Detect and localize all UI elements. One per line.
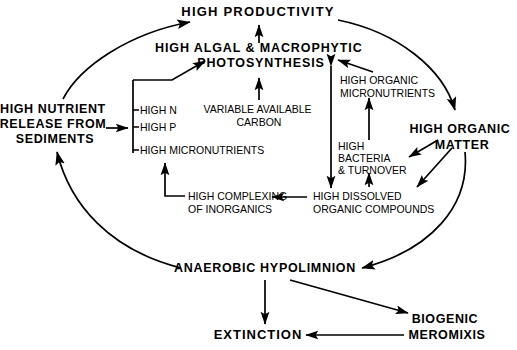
node-biogenic-meromixis: BIOGENIC MEROMIXIS — [409, 312, 486, 342]
photosynthesis-line-2: PHOTOSYNTHESIS — [197, 56, 325, 70]
edge-complexing-to-micronutrients — [165, 163, 185, 196]
node-high-complexing-inorganics: HIGH COMPLEXING OF INORGANICS — [188, 190, 290, 215]
complexing-line-1: HIGH COMPLEXING — [188, 190, 287, 202]
bacteria-line-1: HIGH — [338, 140, 364, 152]
organic-matter-line-1: HIGH ORGANIC — [409, 122, 510, 136]
dissolved-line-2: ORGANIC COMPOUNDS — [313, 203, 434, 215]
organic-matter-line-2: MATTER — [435, 138, 490, 152]
node-high-bacteria-turnover: HIGH BACTERIA & TURNOVER — [338, 140, 407, 176]
edge-organic-matter-to-dissolved — [417, 148, 452, 187]
org-micro-line-2: MICRONUTRIENTS — [340, 87, 435, 99]
node-high-productivity: HIGH PRODUCTIVITY — [181, 4, 334, 19]
node-high-organic-micronutrients: HIGH ORGANIC MICRONUTRIENTS — [340, 74, 435, 99]
edge-sediments-to-productivity — [63, 22, 190, 99]
bacteria-line-2: BACTERIA — [338, 152, 391, 164]
carbon-line-2: CARBON — [237, 116, 282, 128]
node-high-algal-photosynthesis: HIGH ALGAL & MACROPHYTIC PHOTOSYNTHESIS — [155, 41, 367, 70]
node-extinction: EXTINCTION — [214, 327, 303, 342]
dissolved-line-1: HIGH DISSOLVED — [313, 190, 402, 202]
nutrient-line-2: RELEASE FROM — [0, 117, 106, 131]
node-variable-available-carbon: VARIABLE AVAILABLE CARBON — [204, 103, 315, 128]
complexing-line-2: OF INORGANICS — [188, 203, 272, 215]
bacteria-line-3: & TURNOVER — [338, 164, 407, 176]
meromixis-line-2: MEROMIXIS — [409, 328, 486, 342]
meromixis-line-1: BIOGENIC — [412, 312, 479, 326]
edge-organic-micronutrients-to-photo — [338, 60, 373, 72]
photosynthesis-line-1: HIGH ALGAL & MACROPHYTIC — [155, 41, 363, 55]
nutrient-line-1: HIGH NUTRIENT — [0, 102, 106, 116]
edge-hypolimnion-to-meromixis — [290, 280, 408, 313]
edge-hypolimnion-to-sediments — [57, 152, 181, 268]
feedback-loop-diagram: HIGH PRODUCTIVITY HIGH ALGAL & MACROPHYT… — [0, 0, 517, 350]
org-micro-line-1: HIGH ORGANIC — [340, 74, 419, 86]
nutrient-line-3: SEDIMENTS — [16, 132, 94, 146]
node-high-n: HIGH N — [140, 104, 177, 116]
nutrient-bracket — [133, 80, 139, 153]
node-high-nutrient-release: HIGH NUTRIENT RELEASE FROM SEDIMENTS — [0, 102, 110, 146]
edge-nutrient-list-to-photosynthesis — [133, 61, 205, 80]
node-high-p: HIGH P — [140, 121, 176, 133]
node-high-micronutrients: HIGH MICRONUTRIENTS — [140, 144, 264, 156]
node-high-dissolved-organic: HIGH DISSOLVED ORGANIC COMPOUNDS — [313, 190, 434, 215]
node-anaerobic-hypolimnion: ANAEROBIC HYPOLIMNION — [174, 261, 356, 275]
carbon-line-1: VARIABLE AVAILABLE — [204, 103, 312, 115]
diagram-canvas: HIGH PRODUCTIVITY HIGH ALGAL & MACROPHYT… — [0, 0, 517, 350]
